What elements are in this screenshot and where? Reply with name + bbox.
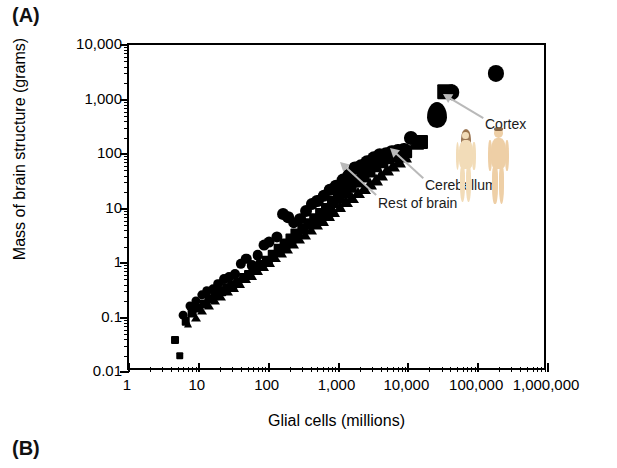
figure-arm-right xyxy=(472,142,475,171)
y-tick-minor xyxy=(124,323,129,324)
y-tick-minor xyxy=(124,47,129,48)
y-tick-label: 10,000 xyxy=(76,35,122,52)
y-tick-minor xyxy=(124,271,129,272)
x-tick-minor xyxy=(311,367,312,372)
x-tick-minor xyxy=(471,367,472,372)
x-tick-minor xyxy=(527,367,528,372)
x-tick-minor xyxy=(533,367,534,372)
y-tick-minor xyxy=(124,102,129,103)
y-tick-label: 100 xyxy=(97,144,122,161)
y-tick-minor xyxy=(124,112,129,113)
x-tick-minor xyxy=(372,367,373,372)
x-tick-minor xyxy=(220,367,221,372)
y-tick-minor xyxy=(124,192,129,193)
y-tick-minor xyxy=(124,121,129,122)
x-tick-minor xyxy=(232,367,233,372)
y-tick-minor xyxy=(124,128,129,129)
y-tick-minor xyxy=(124,162,129,163)
y-tick-label: 1,000 xyxy=(84,89,122,106)
data-point-rest-of-brain xyxy=(427,102,447,128)
y-tick-minor xyxy=(124,217,129,218)
y-tick-minor xyxy=(124,50,129,51)
x-tick-major xyxy=(477,363,479,372)
y-tick-minor xyxy=(124,301,129,302)
x-tick-minor xyxy=(402,367,403,372)
y-tick-minor xyxy=(124,57,129,58)
x-tick-minor xyxy=(499,367,500,372)
y-tick-major xyxy=(120,208,129,210)
y-tick-major xyxy=(120,262,129,264)
y-axis-title: Mass of brain structure (grams) xyxy=(11,0,29,359)
figure-leg-left xyxy=(492,166,497,204)
x-tick-minor xyxy=(457,367,458,372)
y-tick-minor xyxy=(124,221,129,222)
y-tick-minor xyxy=(124,247,129,248)
x-tick-minor xyxy=(188,367,189,372)
x-tick-minor xyxy=(162,367,163,372)
y-tick-minor xyxy=(124,334,129,335)
data-point-cerebellum xyxy=(176,352,184,360)
x-tick-minor xyxy=(192,367,193,372)
y-tick-minor xyxy=(124,53,129,54)
y-tick-label: 0.1 xyxy=(101,307,122,324)
x-tick-minor xyxy=(360,367,361,372)
x-tick-major xyxy=(547,363,549,372)
x-tick-minor xyxy=(178,367,179,372)
figure-leg-right xyxy=(466,166,471,202)
x-tick-label: 10 xyxy=(188,376,205,393)
y-tick-minor xyxy=(124,105,129,106)
annotation-label-rest-of-brain: Rest of brain xyxy=(378,195,457,211)
y-tick-minor xyxy=(124,330,129,331)
x-tick-major xyxy=(268,363,270,372)
x-tick-minor xyxy=(450,367,451,372)
y-tick-minor xyxy=(124,159,129,160)
x-axis-title: Glial cells (millions) xyxy=(127,412,546,430)
x-tick-label: 1,000,000 xyxy=(513,376,580,393)
figure-leg-left xyxy=(460,166,465,202)
x-tick-minor xyxy=(463,367,464,372)
y-tick-major xyxy=(120,317,129,319)
y-tick-minor xyxy=(124,320,129,321)
y-tick-minor xyxy=(124,265,129,266)
y-tick-label: 10 xyxy=(105,198,122,215)
x-tick-minor xyxy=(317,367,318,372)
x-tick-minor xyxy=(541,367,542,372)
x-tick-minor xyxy=(265,367,266,372)
x-tick-minor xyxy=(442,367,443,372)
data-point-cerebellum xyxy=(171,336,179,344)
y-tick-minor xyxy=(124,156,129,157)
y-tick-minor xyxy=(124,211,129,212)
x-tick-minor xyxy=(248,367,249,372)
x-axis-tick-labels: 1101001,00010,000100,0001,000,000 xyxy=(127,376,546,400)
x-tick-minor xyxy=(467,367,468,372)
x-tick-major xyxy=(198,363,200,372)
data-point-rest-of-brain xyxy=(408,137,424,150)
y-tick-minor xyxy=(124,61,129,62)
y-tick-label: 1 xyxy=(114,253,122,270)
x-tick-minor xyxy=(537,367,538,372)
figure-torso xyxy=(491,138,506,168)
y-tick-minor xyxy=(124,225,129,226)
y-tick-minor xyxy=(124,67,129,68)
x-tick-minor xyxy=(241,367,242,372)
y-tick-minor xyxy=(124,356,129,357)
panel-b-label: (B) xyxy=(12,437,40,460)
y-tick-minor xyxy=(124,83,129,84)
figure-leg-right xyxy=(499,166,504,204)
x-tick-minor xyxy=(520,367,521,372)
x-tick-minor xyxy=(332,367,333,372)
x-tick-minor xyxy=(328,367,329,372)
y-tick-minor xyxy=(124,138,129,139)
y-tick-major xyxy=(120,44,129,46)
x-tick-minor xyxy=(323,367,324,372)
y-tick-minor xyxy=(124,214,129,215)
x-tick-major xyxy=(338,363,340,372)
y-tick-major xyxy=(120,99,129,101)
y-tick-minor xyxy=(124,275,129,276)
x-tick-minor xyxy=(150,367,151,372)
female-figure xyxy=(455,130,477,202)
y-tick-minor xyxy=(124,268,129,269)
y-tick-minor xyxy=(124,230,129,231)
x-tick-minor xyxy=(290,367,291,372)
x-tick-minor xyxy=(511,367,512,372)
